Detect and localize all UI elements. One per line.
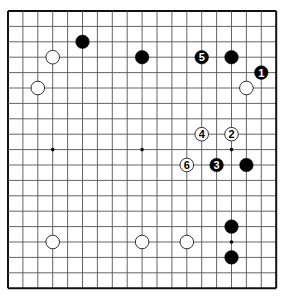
- star-point-icon: [230, 148, 234, 152]
- move-number: 4: [199, 128, 206, 140]
- black-stone: [225, 220, 239, 234]
- black-stone: [135, 50, 149, 64]
- black-stone-icon: [225, 50, 239, 64]
- black-stone: 3: [210, 158, 224, 172]
- black-stone: [240, 158, 254, 172]
- go-board: 514263: [0, 0, 283, 296]
- white-stone-icon: [31, 81, 45, 95]
- white-stone: [180, 235, 194, 249]
- white-stone-icon: [240, 81, 254, 95]
- black-stone: 5: [195, 50, 209, 64]
- white-stone: [46, 50, 60, 64]
- move-number: 6: [184, 159, 190, 171]
- black-stone-icon: [225, 220, 239, 234]
- move-number: 3: [214, 159, 220, 171]
- white-stone: [46, 235, 60, 249]
- black-stone: [225, 50, 239, 64]
- white-stone-icon: [46, 50, 60, 64]
- black-stone-icon: [240, 158, 254, 172]
- white-stone-icon: [135, 235, 149, 249]
- star-point-icon: [230, 240, 234, 244]
- white-stone: [135, 235, 149, 249]
- white-stone-icon: [180, 235, 194, 249]
- white-stone: [240, 81, 254, 95]
- white-stone: [31, 81, 45, 95]
- move-number: 1: [258, 67, 264, 79]
- star-point-icon: [51, 148, 55, 152]
- black-stone: 1: [254, 66, 268, 80]
- white-stone: 6: [180, 158, 194, 172]
- black-stone: [225, 251, 239, 265]
- star-point-icon: [140, 148, 144, 152]
- white-stone-icon: [46, 235, 60, 249]
- move-number: 2: [228, 128, 234, 140]
- white-stone: 2: [225, 127, 239, 141]
- black-stone-icon: [225, 251, 239, 265]
- move-number: 5: [199, 51, 205, 63]
- white-stone: 4: [195, 127, 209, 141]
- black-stone-icon: [135, 50, 149, 64]
- black-stone-icon: [76, 35, 90, 49]
- black-stone: [76, 35, 90, 49]
